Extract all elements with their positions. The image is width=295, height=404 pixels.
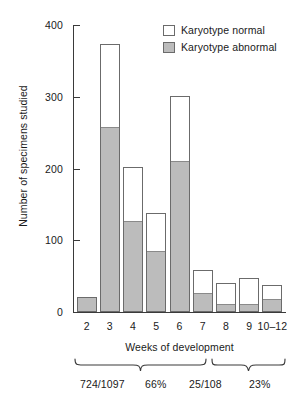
y-tick-label-300: 300 xyxy=(25,92,63,102)
y-tick-300 xyxy=(73,97,80,98)
bar-chart-figure: 0100200300400 Number of specimens studie… xyxy=(0,0,295,404)
annotation-early-percent: 66% xyxy=(145,378,166,390)
bar-week-4 xyxy=(123,167,143,312)
bar-week-6 xyxy=(170,96,190,312)
bar-segment-abnormal-week-9 xyxy=(240,304,258,311)
annotation-early-ratio: 724/1097 xyxy=(80,378,125,390)
x-axis-line xyxy=(73,312,286,313)
annotation-late-percent: 23% xyxy=(249,378,270,390)
annotation-late-ratio: 25/108 xyxy=(189,378,222,390)
y-axis-title: Number of specimens studied xyxy=(17,56,29,256)
brace-late-icon xyxy=(210,358,287,372)
legend-swatch-normal-icon xyxy=(163,25,175,36)
bar-segment-abnormal-week-8 xyxy=(217,304,235,311)
bar-segment-abnormal-week-5 xyxy=(147,251,165,311)
y-tick-100 xyxy=(73,240,80,241)
legend-item-normal: Karyotype normal xyxy=(163,23,277,38)
x-tick-label-week-10–12: 10–12 xyxy=(253,320,291,332)
bar-segment-abnormal-week-6 xyxy=(171,161,189,311)
bar-week-9 xyxy=(239,278,259,312)
y-tick-200 xyxy=(73,169,80,170)
legend-label-abnormal: Karyotype abnormal xyxy=(181,42,277,53)
bar-segment-abnormal-week-10–12 xyxy=(263,299,281,311)
y-tick-400 xyxy=(73,25,80,26)
legend-swatch-abnormal-icon xyxy=(163,42,175,53)
bar-week-10–12 xyxy=(262,285,282,312)
y-tick-label-400: 400 xyxy=(25,20,63,30)
brace-early-icon xyxy=(73,358,208,372)
y-tick-label-0: 0 xyxy=(25,307,63,317)
bar-week-5 xyxy=(146,213,166,312)
bar-week-2 xyxy=(77,297,97,312)
bar-week-3 xyxy=(100,44,120,312)
legend-label-normal: Karyotype normal xyxy=(181,25,265,36)
y-tick-label-200: 200 xyxy=(25,164,63,174)
legend: Karyotype normal Karyotype abnormal xyxy=(163,23,277,57)
bar-segment-abnormal-week-3 xyxy=(101,127,119,311)
bar-segment-abnormal-week-4 xyxy=(124,221,142,311)
bar-segment-abnormal-week-7 xyxy=(194,293,212,311)
legend-item-abnormal: Karyotype abnormal xyxy=(163,40,277,55)
x-axis-title: Weeks of development xyxy=(73,341,286,353)
bar-week-8 xyxy=(216,283,236,312)
bar-week-7 xyxy=(193,270,213,312)
y-tick-label-100: 100 xyxy=(25,235,63,245)
bar-segment-abnormal-week-2 xyxy=(78,297,96,311)
